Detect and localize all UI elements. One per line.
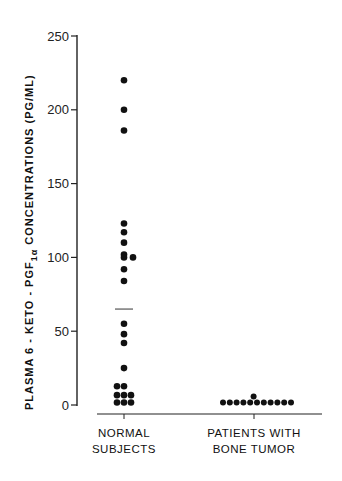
data-point <box>114 392 121 399</box>
data-points <box>114 77 294 406</box>
data-point <box>121 278 128 285</box>
data-point <box>121 127 128 134</box>
data-point <box>128 399 135 406</box>
data-point <box>274 400 280 406</box>
y-tick-label: 150 <box>47 176 69 191</box>
category-label-normal-line2: SUBJECTS <box>92 443 156 455</box>
data-point <box>121 77 128 84</box>
data-point <box>121 266 128 273</box>
data-point <box>121 321 128 328</box>
data-point <box>121 392 128 399</box>
data-point <box>288 400 294 406</box>
data-point <box>227 400 233 406</box>
data-point <box>121 229 128 236</box>
data-point <box>121 107 128 114</box>
y-tick-label: 0 <box>62 398 69 413</box>
data-point <box>121 365 128 372</box>
category-label-tumor-line1: PATIENTS WITH <box>207 427 301 439</box>
data-point <box>121 331 128 338</box>
y-tick-label: 250 <box>47 29 69 44</box>
data-point <box>281 400 287 406</box>
data-point <box>254 400 260 406</box>
y-tick-label: 200 <box>47 102 69 117</box>
data-point <box>234 400 240 406</box>
y-tick-label: 50 <box>55 324 69 339</box>
data-point <box>261 400 267 406</box>
y-axis-label: PLASMA 6 - KETO - PGF1α CONCENTRATIONS (… <box>23 74 39 410</box>
dot-plot-chart: 050100150200250 PLASMA 6 - KETO - PGF1α … <box>0 0 342 481</box>
data-point <box>128 392 135 399</box>
data-point <box>121 399 128 406</box>
data-point <box>121 340 128 347</box>
data-point <box>251 394 257 400</box>
data-point <box>114 383 121 390</box>
category-label-normal-line1: NORMAL <box>98 427 150 439</box>
data-point <box>130 254 137 261</box>
data-point <box>121 239 128 246</box>
data-point <box>121 254 128 261</box>
data-point <box>247 400 253 406</box>
data-point <box>220 400 226 406</box>
y-tick-label: 100 <box>47 250 69 265</box>
category-label-tumor-line2: BONE TUMOR <box>213 443 296 455</box>
data-point <box>121 220 128 227</box>
data-point <box>121 383 128 390</box>
data-point <box>114 399 121 406</box>
data-point <box>240 400 246 406</box>
data-point <box>268 400 274 406</box>
y-ticks: 050100150200250 <box>47 29 77 413</box>
